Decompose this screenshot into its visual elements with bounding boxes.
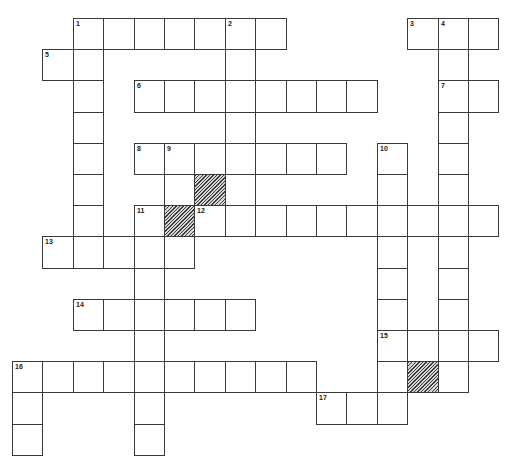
grid-cell[interactable]: 8 <box>134 143 165 175</box>
grid-cell[interactable]: 17 <box>316 392 347 425</box>
grid-cell[interactable] <box>73 174 104 206</box>
grid-cell[interactable]: 1 <box>73 18 104 50</box>
grid-cell[interactable] <box>134 361 165 393</box>
grid-cell[interactable] <box>225 205 256 237</box>
grid-cell[interactable]: 11 <box>134 205 165 237</box>
grid-cell[interactable] <box>164 174 195 206</box>
grid-cell[interactable] <box>255 361 287 393</box>
grid-cell[interactable] <box>73 49 104 81</box>
grid-cell[interactable] <box>377 205 408 237</box>
grid-cell[interactable] <box>407 205 439 237</box>
grid-cell[interactable] <box>194 361 226 393</box>
grid-cell[interactable] <box>134 299 165 331</box>
grid-cell[interactable] <box>377 236 408 269</box>
grid-cell[interactable] <box>73 236 104 269</box>
grid-cell[interactable] <box>225 174 256 206</box>
grid-cell[interactable] <box>194 18 226 50</box>
grid-cell[interactable] <box>194 143 226 175</box>
grid-cell[interactable]: 15 <box>377 330 408 362</box>
grid-cell[interactable] <box>103 18 135 50</box>
grid-cell[interactable] <box>316 80 347 113</box>
grid-cell[interactable] <box>438 268 469 300</box>
grid-cell[interactable] <box>134 424 165 456</box>
clue-number: 13 <box>45 238 53 245</box>
grid-cell[interactable] <box>468 18 499 50</box>
grid-cell[interactable] <box>225 80 256 113</box>
grid-cell[interactable] <box>468 330 499 362</box>
grid-cell[interactable] <box>286 205 317 237</box>
grid-cell[interactable]: 13 <box>42 236 74 269</box>
grid-cell[interactable] <box>134 18 165 50</box>
grid-cell[interactable] <box>134 330 165 362</box>
grid-cell[interactable] <box>438 299 469 331</box>
grid-cell[interactable] <box>225 299 256 331</box>
grid-cell[interactable] <box>255 143 287 175</box>
grid-cell[interactable] <box>407 330 439 362</box>
grid-cell[interactable] <box>103 236 135 269</box>
grid-cell[interactable] <box>12 392 43 425</box>
grid-cell[interactable] <box>346 392 378 425</box>
grid-cell[interactable] <box>164 18 195 50</box>
grid-cell[interactable] <box>134 392 165 425</box>
grid-cell[interactable] <box>12 424 43 456</box>
grid-cell[interactable] <box>438 205 469 237</box>
grid-cell[interactable] <box>164 236 195 269</box>
grid-cell[interactable] <box>438 236 469 269</box>
grid-cell[interactable] <box>286 143 317 175</box>
grid-cell[interactable] <box>438 361 469 393</box>
grid-cell[interactable] <box>377 392 408 425</box>
grid-cell[interactable] <box>134 268 165 300</box>
clue-number: 2 <box>228 20 232 27</box>
grid-cell[interactable] <box>194 80 226 113</box>
grid-cell[interactable]: 6 <box>134 80 165 113</box>
grid-cell[interactable] <box>255 205 287 237</box>
crossword-grid: 1234567891011121314151617 <box>0 0 510 467</box>
grid-cell[interactable] <box>316 143 347 175</box>
grid-cell[interactable] <box>225 143 256 175</box>
grid-cell[interactable] <box>103 361 135 393</box>
grid-cell[interactable] <box>438 112 469 144</box>
grid-cell[interactable] <box>164 299 195 331</box>
grid-cell[interactable] <box>225 112 256 144</box>
grid-cell[interactable]: 10 <box>377 143 408 175</box>
grid-cell[interactable]: 7 <box>438 80 469 113</box>
grid-cell[interactable] <box>377 174 408 206</box>
grid-cell[interactable] <box>377 299 408 331</box>
grid-cell[interactable]: 3 <box>407 18 439 50</box>
grid-cell[interactable] <box>225 49 256 81</box>
grid-cell[interactable] <box>438 49 469 81</box>
grid-cell[interactable] <box>225 361 256 393</box>
grid-cell[interactable] <box>438 174 469 206</box>
grid-cell[interactable]: 4 <box>438 18 469 50</box>
grid-cell[interactable] <box>134 236 165 269</box>
grid-cell[interactable] <box>73 80 104 113</box>
grid-cell[interactable] <box>255 80 287 113</box>
grid-cell[interactable]: 12 <box>194 205 226 237</box>
grid-cell[interactable]: 14 <box>73 299 104 331</box>
grid-cell[interactable] <box>286 80 317 113</box>
grid-cell[interactable] <box>286 361 317 393</box>
grid-cell[interactable] <box>438 330 469 362</box>
grid-cell[interactable] <box>377 361 408 393</box>
grid-cell[interactable] <box>103 299 135 331</box>
grid-cell[interactable] <box>164 361 195 393</box>
grid-cell[interactable] <box>164 80 195 113</box>
grid-cell[interactable]: 2 <box>225 18 256 50</box>
grid-cell[interactable] <box>73 112 104 144</box>
grid-cell[interactable]: 9 <box>164 143 195 175</box>
grid-cell[interactable] <box>438 143 469 175</box>
grid-cell[interactable] <box>73 361 104 393</box>
grid-cell[interactable] <box>255 18 287 50</box>
grid-cell[interactable] <box>194 299 226 331</box>
grid-cell[interactable] <box>346 205 378 237</box>
grid-cell[interactable] <box>377 268 408 300</box>
grid-cell[interactable] <box>468 205 499 237</box>
grid-cell[interactable] <box>73 143 104 175</box>
grid-cell[interactable] <box>316 205 347 237</box>
grid-cell[interactable]: 5 <box>42 49 74 81</box>
grid-cell[interactable] <box>42 361 74 393</box>
grid-cell[interactable] <box>468 80 499 113</box>
grid-cell[interactable]: 16 <box>12 361 43 393</box>
grid-cell[interactable] <box>346 80 378 113</box>
grid-cell[interactable] <box>73 205 104 237</box>
